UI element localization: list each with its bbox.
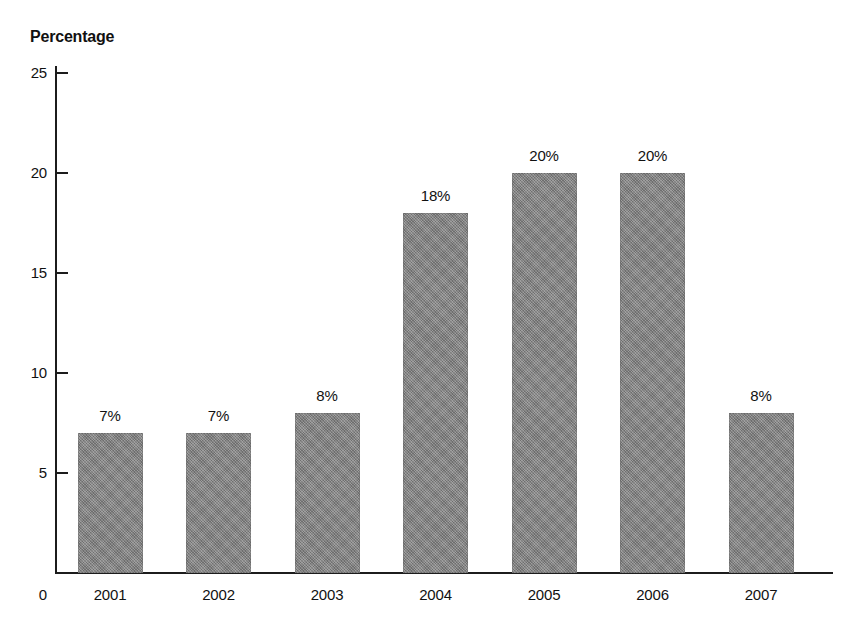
x-axis-label: 2006 bbox=[613, 586, 693, 603]
bar-2004 bbox=[403, 213, 468, 573]
bar-value-label: 20% bbox=[504, 147, 584, 164]
bar-value-label: 20% bbox=[613, 147, 693, 164]
bar-2007 bbox=[729, 413, 794, 573]
bar-2003 bbox=[295, 413, 360, 573]
bar-chart: Percentage 252015105 0 20012002200320042… bbox=[0, 0, 851, 621]
x-axis-label: 2005 bbox=[504, 586, 584, 603]
x-axis-label: 2003 bbox=[287, 586, 367, 603]
x-axis-label: 2002 bbox=[179, 586, 259, 603]
bar-2001 bbox=[78, 433, 143, 573]
y-axis-label: 5 bbox=[7, 464, 47, 481]
bar-value-label: 8% bbox=[287, 387, 367, 404]
bar-value-label: 18% bbox=[396, 187, 476, 204]
bar-2005 bbox=[512, 173, 577, 573]
y-axis-origin-label: 0 bbox=[7, 586, 47, 603]
x-axis-label: 2007 bbox=[721, 586, 801, 603]
bar-2002 bbox=[186, 433, 251, 573]
y-axis-label: 25 bbox=[7, 64, 47, 81]
bar-value-label: 7% bbox=[70, 407, 150, 424]
bar-value-label: 7% bbox=[179, 407, 259, 424]
bar-2006 bbox=[620, 173, 685, 573]
y-axis-label: 20 bbox=[7, 164, 47, 181]
x-axis-label: 2004 bbox=[396, 586, 476, 603]
y-axis-label: 15 bbox=[7, 264, 47, 281]
bar-value-label: 8% bbox=[721, 387, 801, 404]
chart-title: Percentage bbox=[30, 28, 114, 46]
y-axis-label: 10 bbox=[7, 364, 47, 381]
x-axis-label: 2001 bbox=[70, 586, 150, 603]
